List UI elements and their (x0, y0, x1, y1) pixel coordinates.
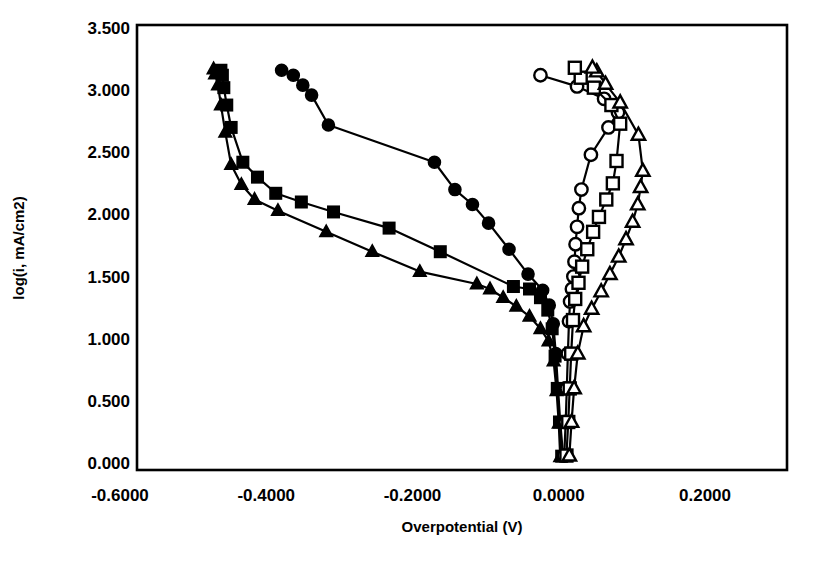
data-point-open-square (576, 261, 588, 273)
data-point-open-square (600, 194, 612, 206)
y-axis-title: log(i, mA/cm2) (10, 196, 27, 299)
data-point-filled-circle (322, 119, 334, 131)
y-tick-label: 3.000 (87, 81, 130, 100)
y-tick-label: 1.500 (87, 268, 130, 287)
x-tick-label: -0.6000 (91, 486, 149, 505)
data-point-open-circle (571, 221, 583, 233)
data-point-open-square (614, 118, 626, 130)
data-point-filled-circle (503, 243, 515, 255)
y-tick-label: 3.500 (87, 19, 130, 38)
y-tick-label: 1.000 (87, 330, 130, 349)
data-point-filled-square (524, 283, 535, 294)
data-point-open-circle (569, 238, 581, 250)
data-point-filled-circle (483, 217, 495, 229)
data-point-open-circle (585, 149, 597, 161)
y-tick-label: 0.000 (87, 454, 130, 473)
data-point-open-square (567, 314, 579, 326)
data-point-filled-circle (466, 198, 478, 210)
data-point-open-circle (534, 69, 546, 81)
data-point-filled-circle (428, 156, 440, 168)
data-point-filled-square (508, 281, 519, 292)
data-point-open-square (569, 293, 581, 305)
x-tick-label: 0.2000 (679, 486, 731, 505)
data-point-filled-square (270, 188, 281, 199)
data-point-filled-circle (522, 268, 534, 280)
data-point-open-circle (602, 121, 614, 133)
chart-screenshot: 0.0000.5001.0001.5002.0002.5003.0003.500… (0, 0, 827, 565)
data-point-filled-circle (306, 89, 318, 101)
data-point-open-square (588, 82, 600, 94)
data-point-open-square (611, 155, 623, 167)
polarization-curve-chart: 0.0000.5001.0001.5002.0002.5003.0003.500… (0, 0, 827, 565)
data-point-filled-square (546, 323, 557, 334)
data-point-filled-square (252, 171, 263, 182)
x-tick-label: -0.2000 (384, 486, 442, 505)
data-point-open-square (581, 243, 593, 255)
x-axis-title: Overpotential (V) (402, 518, 523, 535)
data-point-open-square (593, 211, 605, 223)
x-tick-label: 0.0000 (533, 486, 585, 505)
data-point-open-square (572, 277, 584, 289)
data-point-open-circle (575, 183, 587, 195)
data-point-filled-square (296, 196, 307, 207)
data-point-filled-square (542, 304, 553, 315)
data-point-filled-square (328, 206, 339, 217)
data-point-filled-circle (297, 79, 309, 91)
data-point-open-circle (573, 202, 585, 214)
data-point-open-square (569, 62, 581, 74)
data-point-open-square (607, 177, 619, 189)
data-point-filled-square (383, 222, 394, 233)
data-point-filled-square (535, 292, 546, 303)
data-point-open-square (587, 226, 599, 238)
y-tick-label: 2.500 (87, 143, 130, 162)
data-point-filled-square (237, 157, 248, 168)
y-tick-label: 2.000 (87, 205, 130, 224)
data-point-filled-circle (449, 184, 461, 196)
y-tick-label: 0.500 (87, 392, 130, 411)
data-point-filled-circle (287, 69, 299, 81)
x-tick-label: -0.4000 (237, 486, 295, 505)
data-point-filled-square (435, 246, 446, 257)
data-point-filled-circle (276, 64, 288, 76)
